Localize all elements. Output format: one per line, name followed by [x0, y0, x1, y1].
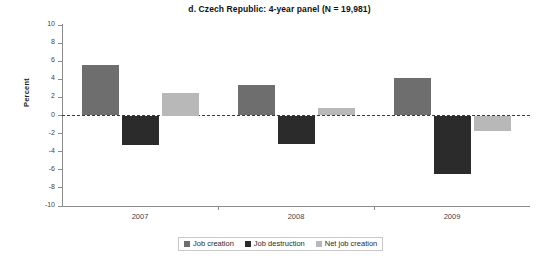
bar-job-destruction-2009	[434, 116, 471, 175]
y-tick-label: -4	[15, 147, 55, 154]
x-axis-line	[62, 206, 530, 207]
y-tick-mark	[58, 133, 62, 134]
y-tick-mark	[58, 206, 62, 207]
bar-job-destruction-2008	[278, 116, 315, 145]
y-tick-label: -6	[15, 165, 55, 172]
y-tick-mark	[58, 169, 62, 170]
y-tick-label: 2	[15, 92, 55, 99]
y-tick-label: 4	[15, 74, 55, 81]
y-tick-mark	[58, 25, 62, 26]
y-tick-mark	[58, 79, 62, 80]
legend-swatch-job-destruction	[245, 241, 251, 247]
x-tick-mark	[218, 206, 219, 210]
x-tick-label-2007: 2007	[110, 212, 170, 221]
bar-job-creation-2009	[394, 78, 431, 115]
bar-net-job-creation-2009	[474, 116, 511, 131]
y-tick-label: 6	[15, 56, 55, 63]
y-tick-mark	[58, 115, 62, 116]
legend-item-job-creation: Job creation	[184, 239, 234, 248]
x-tick-label-2009: 2009	[422, 212, 482, 221]
y-tick-mark	[58, 187, 62, 188]
bar-job-creation-2007	[82, 65, 119, 116]
bar-job-destruction-2007	[122, 116, 159, 146]
chart-title: d. Czech Republic: 4-year panel (N = 19,…	[0, 4, 559, 14]
y-tick-label: -2	[15, 129, 55, 136]
x-tick-mark	[374, 206, 375, 210]
y-tick-label: -10	[15, 201, 55, 208]
bar-net-job-creation-2007	[162, 93, 199, 116]
y-tick-mark	[58, 61, 62, 62]
chart-figure: d. Czech Republic: 4-year panel (N = 19,…	[0, 0, 559, 264]
x-tick-label-2008: 2008	[266, 212, 326, 221]
y-tick-label: -8	[15, 183, 55, 190]
bar-net-job-creation-2008	[318, 108, 355, 115]
y-tick-mark	[58, 43, 62, 44]
legend-label-job-destruction: Job destruction	[254, 239, 305, 248]
legend-label-job-creation: Job creation	[193, 239, 234, 248]
legend-swatch-net-job-creation	[316, 241, 322, 247]
y-tick-label: 10	[15, 20, 55, 27]
y-tick-mark	[58, 97, 62, 98]
y-tick-mark	[58, 151, 62, 152]
chart-legend: Job creation Job destruction Net job cre…	[178, 237, 383, 251]
y-tick-label: 0	[15, 111, 55, 118]
y-tick-label: 8	[15, 38, 55, 45]
legend-label-net-job-creation: Net job creation	[325, 239, 378, 248]
legend-swatch-job-creation	[184, 241, 190, 247]
legend-item-job-destruction: Job destruction	[245, 239, 305, 248]
legend-item-net-job-creation: Net job creation	[316, 239, 378, 248]
bar-job-creation-2008	[238, 85, 275, 116]
